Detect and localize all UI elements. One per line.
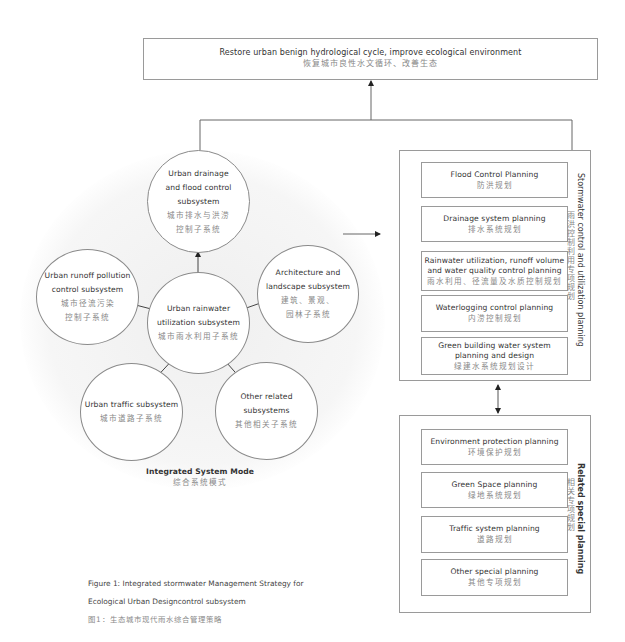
caption-line-1: Figure 1: Integrated stormwater Manageme… <box>88 575 304 593</box>
plan-rainwater-en-1: Rainwater utilization, runoff volume <box>425 256 565 266</box>
goal-text-en: Restore urban benign hydrological cycle,… <box>144 47 597 58</box>
subsystem-other-related: Other related subsystems 其他相关子系统 <box>215 362 318 460</box>
plan-flood-control-en: Flood Control Planning <box>451 170 539 180</box>
plan-rainwater-zh: 雨水利用、径流量及水质控制规划 <box>427 276 562 287</box>
plan-waterlogging-zh: 内涝控制规划 <box>468 313 522 324</box>
drainage-zh-1: 城市排水与洪涝 <box>167 209 230 223</box>
other-en-2: subsystems <box>244 404 290 418</box>
runoff-en-1: Urban runoff pollution <box>45 269 131 283</box>
traffic-en-1: Urban traffic subsystem <box>85 398 179 412</box>
subsystem-traffic: Urban traffic subsystem 城市道路子系统 <box>80 363 183 461</box>
plan-traffic-system: Traffic system planning 道路规划 <box>421 516 568 553</box>
drainage-en-1: Urban drainage <box>168 167 228 181</box>
plan-green-building-water: Green building water system planning and… <box>421 337 568 375</box>
integrated-mode-title: Integrated System Mode 综合系统模式 <box>140 466 260 488</box>
architecture-zh-2: 园林子系统 <box>286 308 331 322</box>
related-planning-panel: Environment protection planning 环境保护规划 G… <box>399 415 591 613</box>
other-zh-1: 其他相关子系统 <box>235 418 298 432</box>
drainage-en-3: subsystem <box>178 195 220 209</box>
traffic-zh-1: 城市道路子系统 <box>100 412 163 426</box>
related-panel-label-en: Related special planning <box>576 463 585 574</box>
plan-drainage-system-en: Drainage system planning <box>443 214 545 224</box>
plan-traffic-en: Traffic system planning <box>449 524 539 534</box>
stormwater-panel: Flood Control Planning 防洪规划 Drainage sys… <box>399 150 591 381</box>
architecture-en-2: landscape subsystem <box>266 280 350 294</box>
caption-line-2: Ecological Urban Designcontrol subsystem <box>88 593 304 611</box>
stormwater-panel-label-zh: 雨洪控制利用专项规划 <box>564 211 575 301</box>
drainage-zh-2: 控制子系统 <box>176 223 221 237</box>
integrated-mode-title-en: Integrated System Mode <box>140 466 260 477</box>
plan-other-special-zh: 其他专项规划 <box>468 577 522 588</box>
plan-flood-control-zh: 防洪规划 <box>477 180 513 191</box>
integrated-mode-title-zh: 综合系统模式 <box>140 477 260 488</box>
goal-text-zh: 恢复城市良性水文循环、改善生态 <box>144 58 597 69</box>
plan-green-building-en-2: planning and design <box>455 351 534 361</box>
plan-rainwater-en-2: and water quality control planning <box>427 266 561 276</box>
drainage-en-2: and flood control <box>165 181 231 195</box>
subsystem-runoff-pollution: Urban runoff pollution control subsystem… <box>36 249 139 345</box>
caption-line-3: 图1：生态城市现代雨水综合管理策略 <box>88 611 304 629</box>
subsystem-drainage: Urban drainage and flood control subsyst… <box>147 150 250 253</box>
plan-environment-protection: Environment protection planning 环境保护规划 <box>421 429 568 465</box>
subsystem-center-rainwater: Urban rainwater utilization subsystem 城市… <box>147 272 250 374</box>
runoff-en-2: control subsystem <box>52 283 123 297</box>
plan-flood-control: Flood Control Planning 防洪规划 <box>421 162 568 198</box>
plan-drainage-system: Drainage system planning 排水系统规划 <box>421 206 568 242</box>
center-en-2: utilization subsystem <box>157 316 240 330</box>
plan-waterlogging-en: Waterlogging control planning <box>436 303 554 313</box>
plan-green-building-en-1: Green building water system <box>438 341 550 351</box>
plan-environment-zh: 环境保护规划 <box>468 447 522 458</box>
plan-other-special-en: Other special planning <box>450 567 538 577</box>
architecture-zh-1: 建筑、景观、 <box>281 294 335 308</box>
plan-traffic-zh: 道路规划 <box>477 534 513 545</box>
center-en-1: Urban rainwater <box>167 302 230 316</box>
related-panel-label-zh: 相关专项规划 <box>564 478 575 532</box>
runoff-zh-2: 控制子系统 <box>65 311 110 325</box>
plan-green-building-zh: 绿建水系统规划设计 <box>454 361 535 372</box>
architecture-en-1: Architecture and <box>276 266 341 280</box>
runoff-zh-1: 城市径流污染 <box>61 297 115 311</box>
plan-other-special: Other special planning 其他专项规划 <box>421 559 568 596</box>
plan-rainwater-utilization: Rainwater utilization, runoff volume and… <box>421 251 568 291</box>
stormwater-panel-label-en: Stormwater control and utilization plann… <box>576 173 585 347</box>
other-en-1: Other related <box>240 390 292 404</box>
subsystem-architecture-landscape: Architecture and landscape subsystem 建筑、… <box>257 245 359 343</box>
plan-drainage-system-zh: 排水系统规划 <box>468 224 522 235</box>
plan-green-space: Green Space planning 绿地系统规划 <box>421 472 568 508</box>
plan-green-space-zh: 绿地系统规划 <box>468 490 522 501</box>
figure-caption: Figure 1: Integrated stormwater Manageme… <box>88 575 304 629</box>
goal-box: Restore urban benign hydrological cycle,… <box>143 38 598 80</box>
plan-waterlogging-control: Waterlogging control planning 内涝控制规划 <box>421 295 568 332</box>
center-zh: 城市雨水利用子系统 <box>158 330 239 344</box>
plan-green-space-en: Green Space planning <box>452 480 538 490</box>
plan-environment-en: Environment protection planning <box>430 437 558 447</box>
